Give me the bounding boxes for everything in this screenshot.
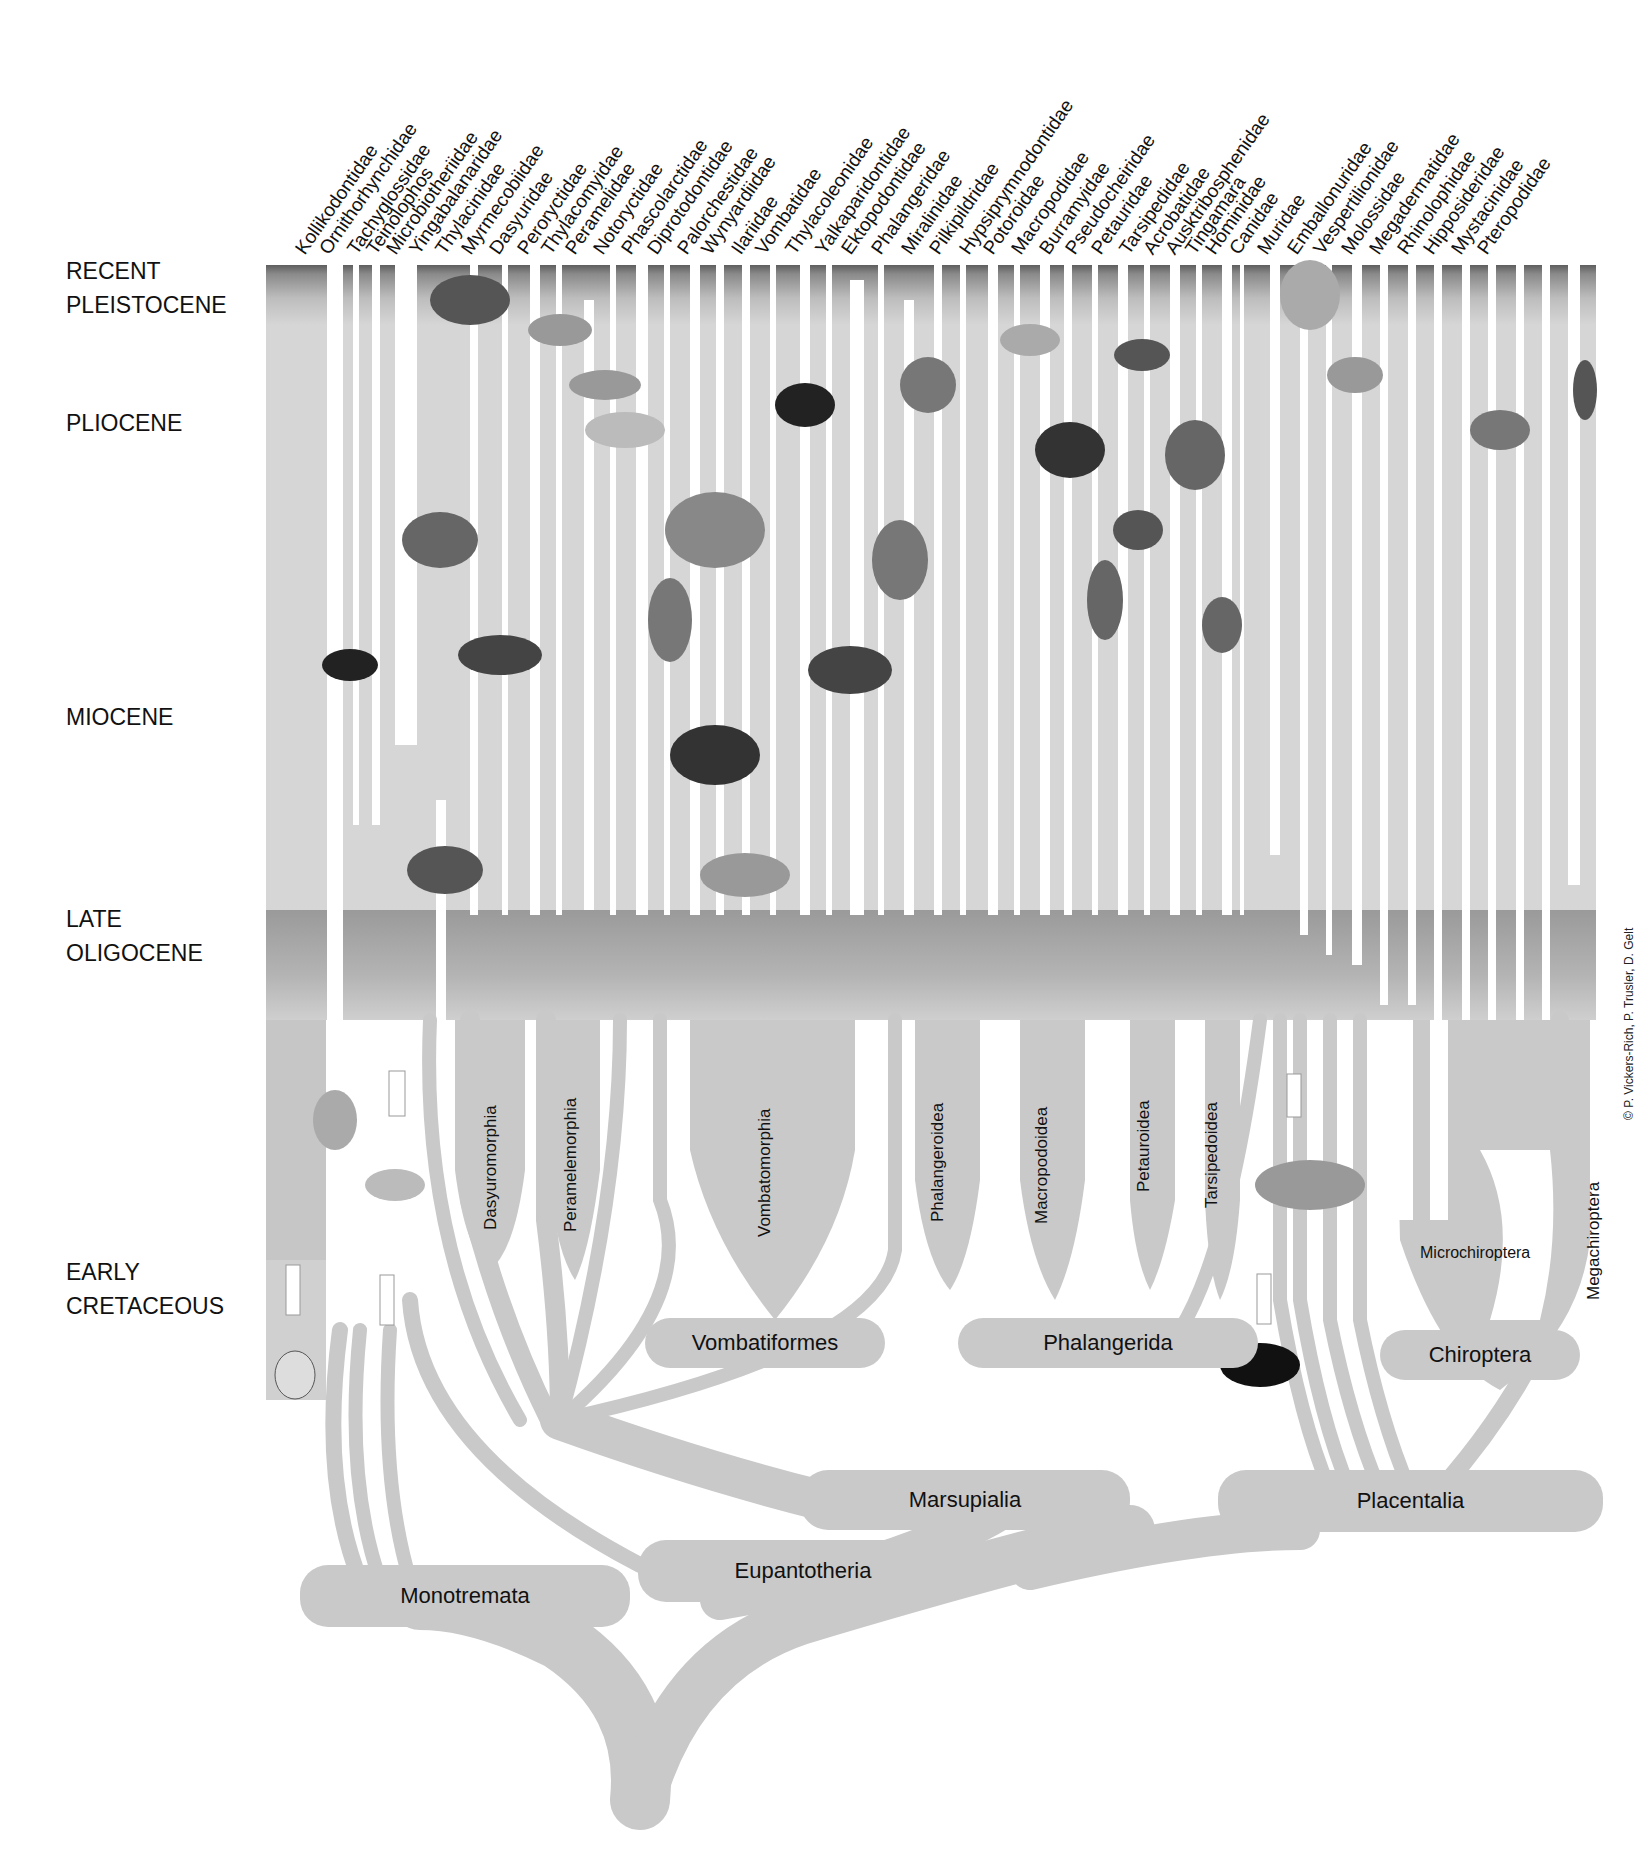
subclade-label: Tarsipedoidea: [1202, 1102, 1222, 1208]
clade-label: Chiroptera: [1380, 1330, 1580, 1380]
clade-label: Vombatiformes: [645, 1318, 885, 1368]
subclade-label: Peramelemorphia: [561, 1098, 581, 1232]
microchiroptera-label: Microchiroptera: [1420, 1244, 1530, 1262]
clade-label: Marsupialia: [800, 1470, 1130, 1530]
subclade-label: Petauroidea: [1134, 1100, 1154, 1192]
clade-label: Eupantotheria: [638, 1540, 968, 1602]
rat-icon: [1327, 357, 1383, 393]
kangaroo-icon: [1035, 422, 1105, 478]
bat-icon: [1470, 410, 1530, 450]
feathertail-icon: [1087, 560, 1123, 640]
mole-icon: [585, 412, 665, 448]
phalanger-icon: [872, 520, 928, 600]
subclade-label: Vombatomorphia: [755, 1108, 775, 1237]
era-label-recent-pleistocene: RECENT PLEISTOCENE: [66, 254, 227, 322]
mammal-phylogeny-diagram: RECENT PLEISTOCENE PLIOCENE MIOCENE LATE…: [0, 0, 1649, 1853]
thylacine-2-icon: [402, 512, 478, 568]
palorchestid-icon: [665, 492, 765, 568]
clade-label: Phalangerida: [958, 1318, 1258, 1368]
platypus-icon: [313, 1090, 357, 1150]
dasyurid-icon: [458, 635, 542, 675]
subclade-label: Macropodoidea: [1032, 1107, 1052, 1224]
subclade-label: Phalangeroidea: [928, 1103, 948, 1222]
possum-icon: [407, 846, 483, 894]
clade-label: Monotremata: [300, 1565, 630, 1627]
echidna-icon: [322, 649, 378, 681]
dingo-icon: [1280, 260, 1340, 330]
koala-icon: [648, 578, 692, 662]
era-label-early-cretaceous: EARLY CRETACEOUS: [66, 1255, 224, 1323]
opossum-icon: [365, 1169, 425, 1201]
pygmy-possum-icon: [1113, 510, 1163, 550]
wombat-icon: [775, 383, 835, 427]
bandicoot-icon: [528, 314, 592, 346]
wynyardiid-icon: [700, 853, 790, 897]
subclade-label: Dasyuromorphia: [481, 1105, 501, 1230]
era-label-late-oligocene: LATE OLIGOCENE: [66, 902, 203, 970]
bilby-icon: [569, 370, 641, 400]
era-label-pliocene: PLIOCENE: [66, 406, 182, 440]
placental-ancestor-icon: [1255, 1160, 1365, 1210]
cuscus-icon: [900, 357, 956, 413]
jaw-fossil-icon: [275, 1351, 315, 1399]
copyright-credit: © P. Vickers-Rich, P. Trusler, D. Gelt: [1622, 928, 1636, 1120]
clade-label: Placentalia: [1218, 1470, 1603, 1532]
potoroo-icon: [1000, 324, 1060, 356]
ringtail-icon: [1165, 420, 1225, 490]
thylacine-icon: [430, 275, 510, 325]
honey-possum-icon: [1202, 597, 1242, 653]
glider-icon: [1114, 339, 1170, 371]
subclade-label: Megachiroptera: [1584, 1182, 1604, 1300]
thylacoleo-icon: [808, 646, 892, 694]
flying-fox-icon: [1573, 360, 1597, 420]
diprotodon-icon: [670, 725, 760, 785]
era-label-miocene: MIOCENE: [66, 700, 173, 734]
